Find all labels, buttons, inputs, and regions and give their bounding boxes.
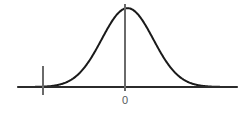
x-axis-tick-label-zero: 0 xyxy=(118,95,132,106)
normal-curve-line xyxy=(18,8,237,87)
normal-distribution-figure: 0 xyxy=(0,0,244,115)
